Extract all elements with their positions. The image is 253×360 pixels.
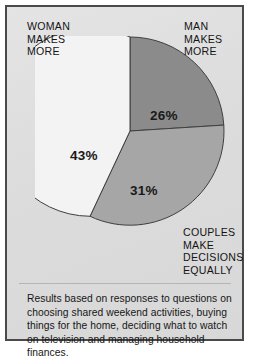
chart-area: 26% 31% 43% WOMAN MAKES MORE MAN MAKES M…	[7, 7, 242, 273]
caption-divider	[19, 283, 231, 284]
callout-equally-line1: COUPLES	[183, 226, 244, 239]
callout-man-line1: MAN	[184, 20, 222, 33]
callout-woman-makes-more: WOMAN MAKES MORE	[27, 20, 70, 58]
callout-man-line3: MORE	[184, 45, 222, 58]
callout-equally-line2: MAKE	[183, 239, 244, 252]
callout-woman-line2: MAKES	[27, 33, 70, 46]
slice-value-man-makes-more: 26%	[150, 108, 178, 123]
chart-caption: Results based on responses to questions …	[27, 292, 233, 360]
slice-value-woman-makes-more: 43%	[70, 148, 98, 163]
chart-frame: 26% 31% 43% WOMAN MAKES MORE MAN MAKES M…	[5, 5, 244, 341]
callout-woman-line3: MORE	[27, 45, 70, 58]
callout-equally-line4: EQUALLY	[183, 264, 244, 277]
slice-value-couples-equally: 31%	[130, 183, 158, 198]
callout-man-makes-more: MAN MAKES MORE	[184, 20, 222, 58]
callout-equally-line3: DECISIONS	[183, 251, 244, 264]
callout-man-line2: MAKES	[184, 33, 222, 46]
callout-couples-decisions-equally: COUPLES MAKE DECISIONS EQUALLY	[183, 226, 244, 276]
callout-woman-line1: WOMAN	[27, 20, 70, 33]
